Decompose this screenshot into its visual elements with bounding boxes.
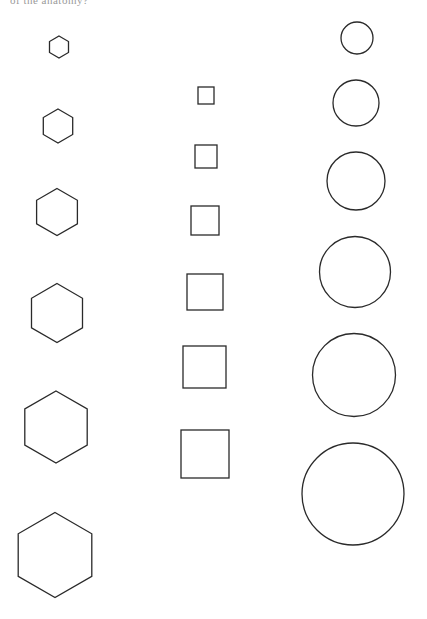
square-3 — [191, 206, 219, 235]
shapes-diagram — [0, 0, 427, 619]
square-5 — [183, 346, 226, 388]
hexagon-column — [18, 36, 92, 598]
hexagon-3 — [37, 189, 78, 236]
square-column — [181, 87, 229, 478]
circle-4 — [320, 237, 391, 308]
hexagon-5 — [25, 391, 87, 463]
square-6 — [181, 430, 229, 478]
circle-3 — [327, 152, 385, 210]
circle-1 — [341, 22, 373, 54]
circle-6 — [302, 443, 404, 545]
square-1 — [198, 87, 214, 104]
square-2 — [195, 145, 217, 168]
hexagon-4 — [32, 284, 83, 343]
square-4 — [187, 274, 223, 310]
hexagon-6 — [18, 513, 92, 598]
hexagon-2 — [43, 109, 72, 143]
circle-2 — [333, 80, 379, 126]
circle-5 — [313, 334, 396, 417]
circle-column — [302, 22, 404, 545]
hexagon-1 — [50, 36, 69, 58]
